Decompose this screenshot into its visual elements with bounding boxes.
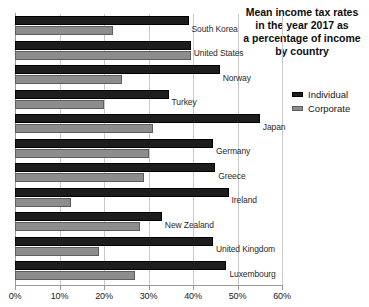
category-label-japan: Japan xyxy=(263,122,286,132)
bar-norway-corporate xyxy=(15,75,122,84)
bar-group: South Korea xyxy=(0,14,369,39)
category-label-luxembourg: Luxembourg xyxy=(229,269,275,279)
bar-new-zealand-individual xyxy=(15,212,162,221)
bar-japan-individual xyxy=(15,114,260,123)
bar-group: United States xyxy=(0,39,369,64)
bar-turkey-individual xyxy=(15,90,169,99)
category-label-united-states: United States xyxy=(194,48,244,58)
bar-group: Greece xyxy=(0,161,369,186)
category-label-greece: Greece xyxy=(218,171,245,181)
bar-group: Luxembourg xyxy=(0,259,369,284)
category-label-united-kingdom: United Kingdom xyxy=(216,244,275,254)
bar-south-korea-individual xyxy=(15,16,189,25)
x-tick-10% xyxy=(60,286,61,290)
bar-group: Japan xyxy=(0,112,369,137)
bar-luxembourg-corporate xyxy=(15,271,135,280)
bar-greece-individual xyxy=(15,163,215,172)
bar-united-states-individual xyxy=(15,41,191,50)
x-tick-60% xyxy=(282,286,283,290)
bar-united-kingdom-corporate xyxy=(15,247,99,256)
bar-ireland-corporate xyxy=(15,198,71,207)
bar-group: Norway xyxy=(0,63,369,88)
bar-ireland-individual xyxy=(15,188,229,197)
category-label-south-korea: South Korea xyxy=(192,24,238,34)
bar-united-kingdom-individual xyxy=(15,237,213,246)
x-tick-40% xyxy=(193,286,194,290)
x-tick-label-50%: 50% xyxy=(229,291,246,301)
income-tax-bar-chart: Mean income tax rates in the year 2017 a… xyxy=(0,0,369,307)
x-tick-label-0%: 0% xyxy=(9,291,22,301)
x-tick-0% xyxy=(15,286,16,290)
bar-luxembourg-individual xyxy=(15,261,226,270)
category-label-new-zealand: New Zealand xyxy=(165,220,214,230)
category-label-norway: Norway xyxy=(223,73,251,83)
bar-group: Ireland xyxy=(0,186,369,211)
bar-group: Turkey xyxy=(0,88,369,113)
bar-new-zealand-corporate xyxy=(15,222,140,231)
bar-group: United Kingdom xyxy=(0,235,369,260)
bar-group: Germany xyxy=(0,137,369,162)
category-label-turkey: Turkey xyxy=(172,97,197,107)
bar-group: New Zealand xyxy=(0,210,369,235)
x-tick-20% xyxy=(104,286,105,290)
bar-japan-corporate xyxy=(15,124,153,133)
category-label-ireland: Ireland xyxy=(232,195,257,205)
bar-germany-individual xyxy=(15,139,213,148)
category-label-germany: Germany xyxy=(216,146,250,156)
x-tick-label-20%: 20% xyxy=(95,291,112,301)
x-tick-label-60%: 60% xyxy=(273,291,290,301)
bar-turkey-corporate xyxy=(15,100,104,109)
bar-greece-corporate xyxy=(15,173,144,182)
bar-south-korea-corporate xyxy=(15,26,113,35)
bar-norway-individual xyxy=(15,65,220,74)
bar-united-states-corporate xyxy=(15,51,191,60)
x-tick-label-30%: 30% xyxy=(140,291,157,301)
x-tick-50% xyxy=(238,286,239,290)
x-tick-label-10%: 10% xyxy=(51,291,68,301)
bar-germany-corporate xyxy=(15,149,149,158)
x-tick-30% xyxy=(149,286,150,290)
x-tick-label-40%: 40% xyxy=(184,291,201,301)
